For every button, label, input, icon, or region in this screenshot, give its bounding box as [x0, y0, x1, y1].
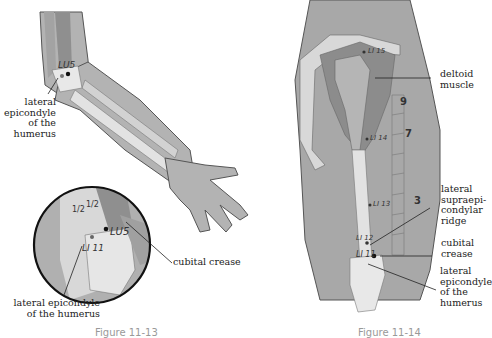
caption-figure-11-13: Figure 11-13	[95, 327, 158, 338]
label-line: lateral	[441, 184, 486, 195]
point-label-li15: LI 15	[368, 47, 385, 55]
scale-number-3: 3	[414, 195, 421, 206]
label-line: cubital	[441, 238, 474, 249]
label-line: of the	[2, 118, 56, 129]
label-line: of the humerus	[10, 309, 100, 320]
point-label-li13: LI 13	[373, 200, 390, 208]
label-lateral-epicondyle-top: lateral epicondyle of the humerus	[2, 97, 56, 139]
label-line: condylar	[441, 205, 486, 216]
scale-number-7: 7	[405, 128, 412, 139]
label-line: deltoid	[440, 69, 474, 80]
label-line: lateral	[440, 266, 492, 277]
label-cubital-crease-right: cubital crease	[441, 238, 474, 259]
label-line: lateral epicondyle	[10, 298, 100, 309]
label-line: humerus	[440, 298, 492, 309]
label-lateral-supraepicondylar-ridge: lateral supraepi- condylar ridge	[441, 184, 486, 226]
caption-figure-11-14: Figure 11-14	[358, 327, 421, 338]
label-line: ridge	[441, 216, 486, 227]
label-line: muscle	[440, 80, 474, 91]
point-label-li12: LI 12	[356, 234, 373, 242]
fraction-half-1: 1/2	[72, 205, 85, 214]
label-lateral-epicondyle-right: lateral epicondyle of the humerus	[440, 266, 492, 308]
label-deltoid-muscle: deltoid muscle	[440, 69, 474, 90]
label-lateral-epicondyle-bottom: lateral epicondyle of the humerus	[10, 298, 100, 319]
point-label-lu5-inset: LU5	[110, 226, 129, 237]
label-line: lateral	[2, 97, 56, 108]
scale-number-9: 9	[400, 96, 407, 107]
label-line: crease	[441, 249, 474, 260]
point-label-li14: LI 14	[370, 134, 387, 142]
label-cubital-crease-left: cubital crease	[173, 257, 241, 268]
point-label-li11: LI 11	[356, 250, 376, 259]
fraction-half-2: 1/2	[86, 200, 99, 209]
point-label-li11-inset: LI 11	[82, 243, 104, 253]
label-line: of the	[440, 287, 492, 298]
label-line: humerus	[2, 129, 56, 140]
point-label-lu5-top: LU5	[58, 60, 75, 70]
